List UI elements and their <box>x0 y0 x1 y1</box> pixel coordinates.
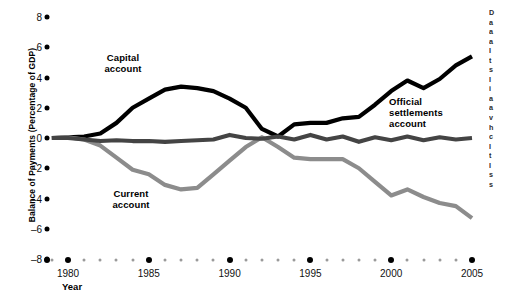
bleed-text-line: a <box>489 37 506 47</box>
bleed-text-line: I <box>489 161 506 171</box>
annotation-capital-line1: Capital <box>92 52 154 63</box>
x-tick-label: 1990 <box>218 268 240 279</box>
x-tick-label: 1985 <box>138 268 160 279</box>
x-tick-label: 2005 <box>461 268 483 279</box>
chart-container: Balance of Payments (Percentage of GDP) … <box>0 0 506 300</box>
bleed-text-line: a <box>489 18 506 28</box>
bleed-text-line: h <box>489 123 506 133</box>
x-tick-label: 1995 <box>299 268 321 279</box>
page-bleed-text: DaaaItsIiaavhcItIss <box>489 8 506 208</box>
bleed-text-line: v <box>489 113 506 123</box>
bleed-text-line: t <box>489 56 506 66</box>
bleed-text-line: t <box>489 151 506 161</box>
annotation-official-line3: account <box>389 118 461 129</box>
annotation-current-account: Current account <box>100 188 162 210</box>
bleed-text-line: c <box>489 132 506 142</box>
annotation-capital-line2: account <box>92 63 154 74</box>
x-tick-label: 2000 <box>380 268 402 279</box>
annotation-official-line2: settlements <box>389 107 461 118</box>
bleed-text-line: a <box>489 103 506 113</box>
annotation-current-line1: Current <box>100 188 162 199</box>
bleed-text-line: s <box>489 180 506 190</box>
x-tick-label: 1980 <box>57 268 79 279</box>
x-axis-tick-marks <box>0 259 506 260</box>
bleed-text-line: i <box>489 84 506 94</box>
annotation-capital-account: Capital account <box>92 52 154 74</box>
annotation-current-line2: account <box>100 199 162 210</box>
plot-area <box>0 0 506 300</box>
bleed-text-line: a <box>489 27 506 37</box>
bleed-text-line: I <box>489 75 506 85</box>
bleed-text-line: I <box>489 46 506 56</box>
bleed-text-line: s <box>489 170 506 180</box>
bleed-text-line: s <box>489 65 506 75</box>
bleed-text-line: D <box>489 8 506 18</box>
annotation-official-settlements-account: Official settlements account <box>389 96 461 129</box>
x-axis-tick-labels: 198019851990199520002005 <box>0 262 506 282</box>
bleed-text-line: a <box>489 94 506 104</box>
annotation-official-line1: Official <box>389 96 461 107</box>
x-axis-title: Year <box>62 281 82 292</box>
bleed-text-line: I <box>489 142 506 152</box>
